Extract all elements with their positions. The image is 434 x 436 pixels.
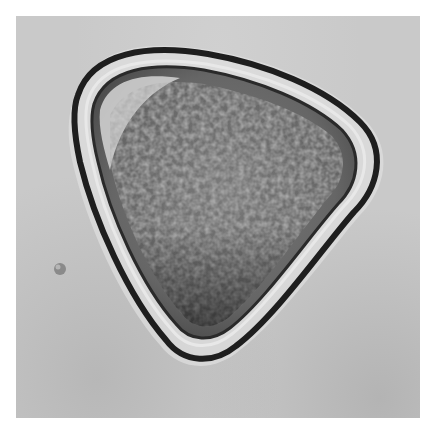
debris-particle-highlight [56, 265, 61, 270]
pollen-grain [0, 0, 434, 436]
debris-particle [54, 263, 66, 275]
